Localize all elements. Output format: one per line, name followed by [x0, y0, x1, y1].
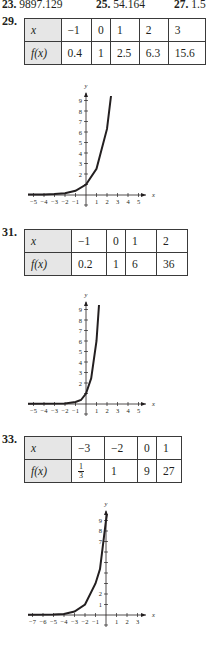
x-tick-label: −3	[71, 618, 78, 625]
x-tick-label: −2	[82, 618, 89, 625]
x-tick-label: −5	[50, 618, 57, 625]
y-tick-label: 8	[99, 527, 102, 534]
x-tick-label: 1	[115, 618, 118, 625]
y-tick-label: 9	[99, 517, 102, 524]
curve	[28, 514, 107, 615]
x-tick-label: 3	[136, 618, 139, 625]
y-tick-label: 7	[99, 538, 103, 545]
x-tick-label: −6	[40, 618, 48, 625]
x-axis-label: x	[151, 611, 155, 618]
y-tick-label: 1	[99, 601, 102, 608]
x-tick-label: −4	[61, 618, 69, 625]
x-tick-label: −1	[92, 618, 99, 625]
y-axis-label: y	[104, 500, 108, 507]
y-tick-label: 2	[99, 590, 102, 597]
x-tick-label: −7	[29, 618, 37, 625]
x-tick-label: 2	[125, 618, 128, 625]
graph-33: −7 −6 −5 −4 −3 −2 −1 1 2 3 1 2 7 8 9 x y	[0, 0, 206, 651]
